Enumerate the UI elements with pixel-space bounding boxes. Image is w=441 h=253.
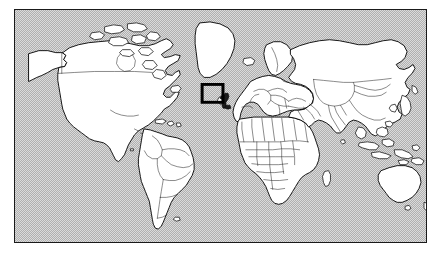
map-figure: United Kingdom <box>0 0 441 253</box>
highlight-rectangle <box>202 84 223 102</box>
world-map-frame <box>14 9 427 243</box>
highlight-box-overlay <box>15 10 426 242</box>
